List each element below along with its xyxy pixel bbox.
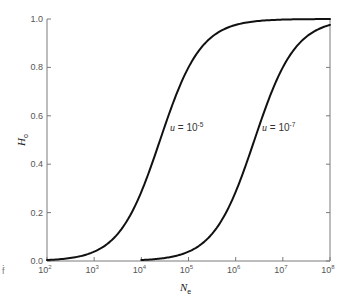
axes bbox=[47, 19, 330, 261]
x-tick-label: 108 bbox=[321, 264, 335, 275]
x-tick-label: 107 bbox=[274, 264, 288, 275]
y-tick-label: 0.4 bbox=[30, 159, 43, 169]
ticks bbox=[47, 19, 330, 261]
x-tick-label: 102 bbox=[38, 264, 52, 275]
annotation-exponent: -7 bbox=[290, 121, 296, 128]
x-tick-label: 104 bbox=[133, 264, 147, 275]
x-tick-label: 103 bbox=[85, 264, 99, 275]
curves bbox=[47, 19, 330, 260]
y-tick-label: 0.2 bbox=[30, 208, 43, 218]
y-tick-label: 0.6 bbox=[30, 111, 43, 121]
tick-labels: 0.00.20.40.60.81.0102103104105106107108 bbox=[30, 14, 335, 275]
annotation-exponent: -5 bbox=[198, 121, 204, 128]
x-tick-label: 106 bbox=[227, 264, 241, 275]
annotation-u-1e-5: u = 10-5 bbox=[170, 121, 204, 133]
chart: 0.00.20.40.60.81.0102103104105106107108 … bbox=[0, 0, 342, 300]
y-axis-label: Ho bbox=[15, 134, 29, 147]
x-tick-label: 105 bbox=[180, 264, 194, 275]
scan-artifact: f bbox=[2, 266, 5, 276]
annotation-u-1e-7: u = 10-7 bbox=[262, 121, 296, 133]
curve-series-0 bbox=[47, 19, 330, 260]
y-tick-label: 0.8 bbox=[30, 62, 43, 72]
x-axis-label: Ne bbox=[179, 281, 191, 295]
curve-series-1 bbox=[141, 25, 330, 260]
y-tick-label: 1.0 bbox=[30, 14, 43, 24]
